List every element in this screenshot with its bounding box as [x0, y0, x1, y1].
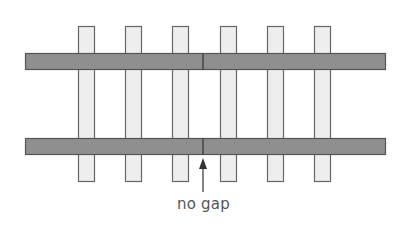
- arrow-icon: [199, 158, 207, 192]
- sleeper-2: [126, 27, 142, 182]
- railway-track-diagram: [0, 0, 402, 227]
- sleeper-4: [221, 27, 237, 182]
- sleeper-6: [315, 27, 331, 182]
- sleeper-3: [173, 27, 189, 182]
- sleepers-group: [79, 27, 331, 182]
- sleeper-1: [79, 27, 95, 182]
- sleeper-5: [268, 27, 284, 182]
- bottom-rail: [26, 139, 386, 155]
- top-rail: [26, 54, 386, 70]
- no-gap-label: no gap: [177, 195, 230, 213]
